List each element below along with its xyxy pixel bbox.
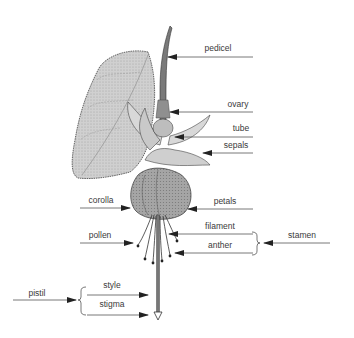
label-corolla: corolla [88, 195, 113, 205]
label-tube: tube [233, 123, 250, 133]
label-petals: petals [214, 196, 237, 206]
label-anther: anther [208, 240, 232, 250]
bracket-pistil [78, 287, 86, 315]
sepal-front [145, 148, 210, 165]
ovary [153, 119, 173, 137]
label-stamen: stamen [288, 230, 316, 240]
flower-illustration [0, 0, 354, 338]
stigma [154, 312, 162, 320]
label-pollen: pollen [89, 230, 112, 240]
tube [156, 100, 170, 118]
bracket-stamen [252, 232, 260, 255]
label-sepals: sepals [224, 140, 249, 150]
label-pedicel: pedicel [205, 43, 232, 53]
label-filament: filament [205, 221, 235, 231]
fuchsia-diagram: pedicel ovary tube sepals corolla petals… [0, 0, 354, 338]
label-style: style [103, 280, 120, 290]
sepal-right [168, 115, 210, 145]
style [157, 215, 160, 313]
label-stigma: stigma [99, 299, 124, 309]
label-pistil: pistil [28, 288, 45, 298]
label-ovary: ovary [228, 99, 249, 109]
corolla [131, 168, 191, 219]
